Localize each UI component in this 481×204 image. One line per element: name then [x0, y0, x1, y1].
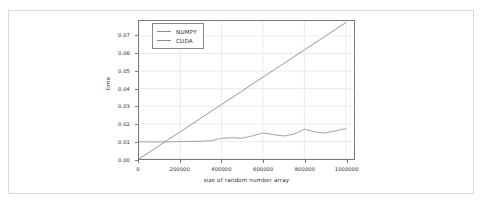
x-axis-label: size of random number array	[138, 177, 355, 183]
y-tick-mark	[135, 142, 138, 143]
y-tick-mark	[135, 124, 138, 125]
legend-label-numpy: NUMPY	[176, 29, 197, 35]
x-tick-mark	[138, 160, 139, 163]
x-tick-label: 400000	[211, 166, 231, 172]
x-tick-label: 0	[136, 166, 139, 172]
x-tick-label: 800000	[295, 166, 315, 172]
y-tick-label: 0.01	[118, 139, 130, 145]
y-axis-label: time	[105, 77, 111, 90]
y-tick-mark	[135, 53, 138, 54]
legend-label-cuda: CUDA	[176, 38, 193, 44]
x-tick-mark	[347, 160, 348, 163]
y-tick-mark	[135, 89, 138, 90]
legend-item-cuda[interactable]: CUDA	[157, 36, 197, 45]
y-tick-mark	[135, 71, 138, 72]
y-tick-label: 0.00	[118, 157, 130, 163]
y-tick-mark	[135, 35, 138, 36]
legend-line-swatch-cuda	[157, 40, 171, 41]
y-tick-label: 0.06	[118, 50, 130, 56]
y-tick-label: 0.07	[118, 32, 130, 38]
legend-item-numpy[interactable]: NUMPY	[157, 27, 197, 36]
x-tick-mark	[221, 160, 222, 163]
y-tick-mark	[135, 106, 138, 107]
legend-line-swatch-numpy	[157, 31, 171, 32]
y-tick-label: 0.04	[118, 86, 130, 92]
screenshot-root: 0.000.010.020.030.040.050.060.07 0200000…	[0, 0, 481, 204]
x-tick-mark	[263, 160, 264, 163]
chart-figure: 0.000.010.020.030.040.050.060.07 0200000…	[100, 12, 390, 192]
x-tick-label: 1000000	[335, 166, 359, 172]
y-tick-label: 0.05	[118, 68, 130, 74]
y-tick-label: 0.02	[118, 121, 130, 127]
x-tick-mark	[180, 160, 181, 163]
chart-legend[interactable]: NUMPY CUDA	[152, 23, 204, 49]
x-tick-label: 600000	[253, 166, 273, 172]
x-tick-label: 200000	[170, 166, 190, 172]
y-tick-label: 0.03	[118, 103, 130, 109]
series-line-cuda	[139, 129, 346, 142]
x-tick-mark	[305, 160, 306, 163]
